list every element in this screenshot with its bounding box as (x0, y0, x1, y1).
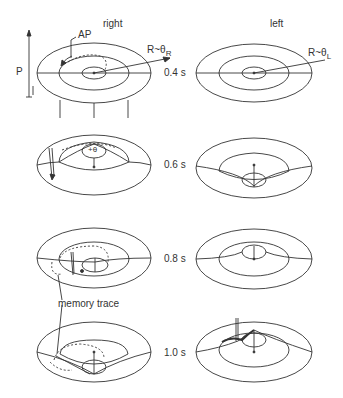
panel-left-1.0s (196, 318, 312, 382)
panel-right-0.8s (37, 228, 151, 300)
column-header-right: right (103, 18, 122, 29)
r-theta-right-label: R~θR (147, 44, 171, 58)
panel-right-1.0s (37, 305, 151, 382)
p-label: P (16, 66, 23, 77)
time-label-1.0s: 1.0 s (164, 347, 186, 358)
theta-plus-label: +θ (88, 145, 97, 154)
ap-label: AP (78, 29, 91, 40)
memory-trace-label: memory trace (58, 298, 119, 309)
time-label-0.4s: 0.4 s (164, 67, 186, 78)
r-theta-left-label: R~θL (308, 47, 331, 61)
panel-left-0.8s (196, 229, 312, 289)
time-label-0.6s: 0.6 s (164, 159, 186, 170)
panel-left-0.6s (196, 138, 312, 198)
diagram-canvas (0, 0, 343, 398)
time-label-0.8s: 0.8 s (164, 253, 186, 264)
panel-left-0.4s (196, 44, 325, 102)
column-header-left: left (270, 18, 283, 29)
panel-right-0.6s (37, 135, 151, 195)
